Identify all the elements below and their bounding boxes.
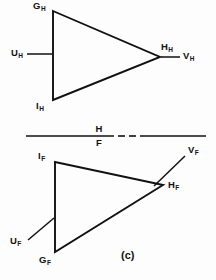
- leader-label-u-h: UH: [11, 48, 23, 58]
- figure-caption: (c): [121, 249, 134, 261]
- fold-line-label-h: H: [92, 124, 106, 134]
- u-f-leader-line: [28, 218, 54, 240]
- upper-triangle: [53, 11, 160, 100]
- lower-triangle: [55, 162, 163, 252]
- vertex-label-i-h: IH: [36, 101, 44, 111]
- vertex-label-h-h: HH: [161, 42, 173, 52]
- vertex-label-g-f: GF: [39, 255, 51, 265]
- leader-label-v-f: VF: [188, 145, 199, 155]
- leader-label-u-f: UF: [10, 236, 21, 246]
- vertex-label-g-h: GH: [33, 1, 46, 11]
- leader-label-v-h: VH: [183, 51, 194, 61]
- projection-diagram: [0, 0, 216, 280]
- vertex-label-i-f: IF: [38, 151, 45, 161]
- lower-triangle-outline: [55, 162, 163, 252]
- figure-container: GH UH HH VH IH H F IF VF HF UF GF (c): [0, 0, 216, 280]
- fold-line-label-f: F: [92, 138, 106, 148]
- vertex-label-h-f: HF: [168, 180, 179, 190]
- upper-triangle-outline: [53, 11, 160, 100]
